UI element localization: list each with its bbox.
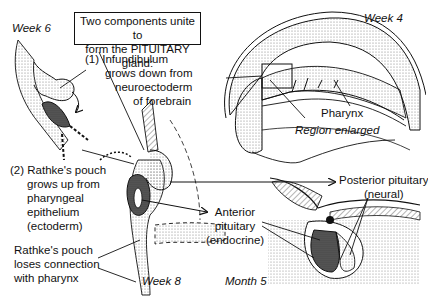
rathke-line-4: epithelium bbox=[27, 206, 79, 220]
anterior-line-1: Anterior bbox=[210, 206, 260, 220]
posterior-line-2: (neural) bbox=[364, 188, 404, 202]
label-region-enlarged: Region enlarged bbox=[295, 124, 379, 138]
rathke-line-3: pharyngeal bbox=[27, 192, 84, 206]
anterior-line-3: (endocrine) bbox=[206, 234, 264, 248]
infundibulum-line-4: of forebrain bbox=[133, 95, 191, 109]
title-line-1: Two components unite to bbox=[75, 14, 200, 42]
infundibulum-line-2: grows down from bbox=[105, 67, 193, 81]
rathke-line-5: (ectoderm) bbox=[27, 220, 83, 234]
stage-label-month5: Month 5 bbox=[225, 275, 267, 289]
stage-label-week8: Week 8 bbox=[142, 275, 181, 289]
title-box: Two components unite to form the PITUITA… bbox=[74, 12, 201, 45]
rathke-line-2: grows up from bbox=[27, 178, 100, 192]
stage-label-week4: Week 4 bbox=[364, 12, 403, 26]
label-pharynx: Pharynx bbox=[321, 107, 363, 121]
rathke-line-1: (2) Rathke's pouch bbox=[10, 164, 106, 178]
posterior-line-1: Posterior pituitary bbox=[339, 174, 428, 188]
loses-line-3: with pharynx bbox=[14, 272, 79, 286]
anterior-line-2: pituitary bbox=[210, 220, 260, 234]
infundibulum-line-3: neuroectoderm bbox=[115, 81, 192, 95]
week4-embryo-drawing bbox=[225, 12, 426, 163]
loses-line-2: loses connection bbox=[14, 258, 100, 272]
stage-label-week6: Week 6 bbox=[12, 22, 51, 36]
infundibulum-line-1: (1) Infundibulum bbox=[85, 53, 168, 67]
loses-line-1: Rathke's pouch bbox=[14, 244, 93, 258]
